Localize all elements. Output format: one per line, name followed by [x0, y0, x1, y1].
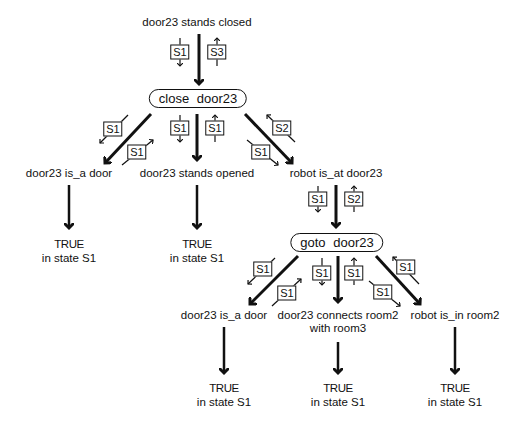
- precondition-door23-is-a-door: door23 is_a door: [26, 167, 112, 180]
- precondition-door23-is-a-door-2: door23 is_a door: [181, 309, 267, 322]
- result-value: TRUE: [428, 381, 482, 395]
- state-badge: S1: [170, 45, 189, 60]
- result-value: TRUE: [170, 237, 224, 251]
- precondition-robot-is-in-room2: robot is_in room2: [411, 309, 500, 322]
- precondition-line2: with room3: [278, 322, 399, 335]
- result-true: TRUE in state S1: [311, 381, 365, 409]
- state-badge: S2: [344, 192, 363, 207]
- diagram-edges: [0, 0, 523, 421]
- state-badge: S1: [308, 192, 327, 207]
- state-badge: S3: [207, 45, 226, 60]
- result-value: TRUE: [42, 237, 96, 251]
- state-badge: S1: [344, 266, 363, 281]
- state-badge: S1: [205, 121, 224, 136]
- result-true: TRUE in state S1: [197, 381, 251, 409]
- result-true: TRUE in state S1: [42, 237, 96, 265]
- precondition-line1: door23 connects room2: [278, 309, 399, 322]
- result-state: in state S1: [170, 251, 224, 265]
- state-badge: S1: [312, 266, 331, 281]
- state-badge: S1: [170, 121, 189, 136]
- state-badge: S1: [253, 262, 272, 277]
- state-badge: S1: [373, 285, 392, 300]
- result-state: in state S1: [42, 251, 96, 265]
- root-goal-label: door23 stands closed: [142, 16, 251, 29]
- operator-goto-door23: goto door23: [290, 233, 383, 252]
- state-badge: S1: [251, 145, 270, 160]
- result-state: in state S1: [197, 395, 251, 409]
- state-badge: S1: [127, 145, 146, 160]
- state-badge: S1: [396, 260, 415, 275]
- result-true: TRUE in state S1: [428, 381, 482, 409]
- result-state: in state S1: [428, 395, 482, 409]
- result-true: TRUE in state S1: [170, 237, 224, 265]
- state-badge: S1: [277, 286, 296, 301]
- state-badge: S1: [103, 122, 122, 137]
- operator-close-door23: close door23: [149, 89, 247, 108]
- precondition-door23-stands-opened: door23 stands opened: [140, 167, 254, 180]
- result-state: in state S1: [311, 395, 365, 409]
- state-badge: S2: [272, 121, 291, 136]
- precondition-robot-is-at-door23: robot is_at door23: [290, 167, 383, 180]
- result-value: TRUE: [197, 381, 251, 395]
- precondition-door23-connects-room2: door23 connects room2 with room3: [278, 309, 399, 335]
- result-value: TRUE: [311, 381, 365, 395]
